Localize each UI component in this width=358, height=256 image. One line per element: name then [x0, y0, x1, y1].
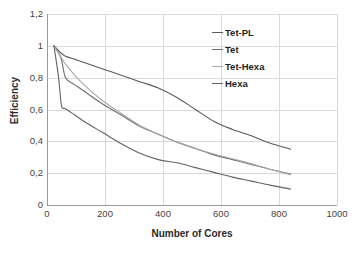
legend-item-label: Tet-Hexa — [225, 61, 264, 72]
series-curves — [0, 0, 358, 256]
legend-item-label: Tet — [225, 44, 239, 55]
efficiency-vs-cores-chart: 00,20,40,60,811,2 02004006008001000 Numb… — [0, 0, 358, 256]
legend-color-swatch-icon — [212, 32, 223, 33]
legend-item-label: Hexa — [225, 78, 248, 89]
legend-color-swatch-icon — [212, 49, 223, 50]
legend-color-swatch-icon — [212, 66, 223, 67]
y-axis-title: Efficiency — [9, 58, 20, 144]
legend-item[interactable]: Hexa — [212, 75, 296, 92]
legend-item[interactable]: Tet-PL — [212, 24, 296, 41]
chart-legend: Tet-PLTetTet-HexaHexa — [212, 24, 296, 92]
legend-color-swatch-icon — [212, 83, 223, 84]
legend-item-label: Tet-PL — [225, 27, 254, 38]
x-axis-title: Number of Cores — [47, 228, 337, 239]
legend-item[interactable]: Tet — [212, 41, 296, 58]
legend-item[interactable]: Tet-Hexa — [212, 58, 296, 75]
